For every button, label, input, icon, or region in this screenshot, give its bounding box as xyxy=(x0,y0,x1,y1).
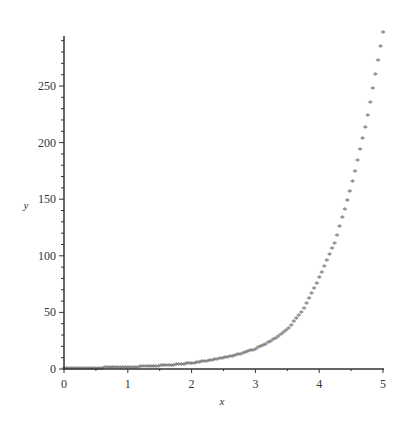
data-point: * xyxy=(368,98,373,109)
data-point: * xyxy=(370,84,375,95)
y-ticks: 050100150200250 xyxy=(38,41,64,376)
x-tick-label: 4 xyxy=(316,377,322,391)
data-point: * xyxy=(363,123,368,134)
y-tick-label: 100 xyxy=(38,249,56,263)
x-tick-label: 0 xyxy=(61,377,67,391)
data-point: * xyxy=(365,111,370,122)
data-point: * xyxy=(358,145,363,156)
x-tick-label: 5 xyxy=(380,377,386,391)
y-axis-label: y xyxy=(23,199,29,211)
y-tick-label: 250 xyxy=(38,79,56,93)
chart: ****************************************… xyxy=(0,0,409,421)
data-point: * xyxy=(352,167,357,178)
data-point: * xyxy=(373,70,378,81)
data-point: * xyxy=(347,187,352,198)
data-point: * xyxy=(381,28,386,39)
data-point: * xyxy=(378,42,383,53)
y-tick-label: 200 xyxy=(38,136,56,150)
data-point: * xyxy=(350,177,355,188)
data-point: * xyxy=(360,134,365,145)
x-axis-label: x xyxy=(219,395,225,407)
data-point: * xyxy=(375,56,380,67)
x-tick-label: 1 xyxy=(125,377,131,391)
x-tick-label: 2 xyxy=(189,377,195,391)
y-tick-label: 150 xyxy=(38,192,56,206)
data-points: ****************************************… xyxy=(62,28,386,375)
y-tick-label: 0 xyxy=(50,362,56,376)
y-tick-label: 50 xyxy=(44,305,56,319)
x-tick-label: 3 xyxy=(252,377,258,391)
data-point: * xyxy=(355,156,360,167)
